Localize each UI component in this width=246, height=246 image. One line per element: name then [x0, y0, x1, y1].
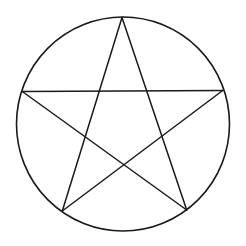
star-edge-left-to-right — [22, 91, 222, 92]
pentagram-diagram — [0, 0, 246, 246]
background — [0, 0, 246, 246]
